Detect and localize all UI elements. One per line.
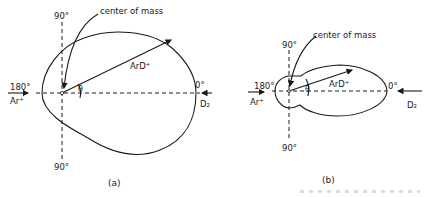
panel-label-a: (a) (108, 178, 121, 188)
top-angle-label-b: 90° (282, 40, 297, 50)
panel-b: 90° 90° 180° 0° center of mass ArD⁺ θ Ar… (248, 30, 422, 185)
center-of-mass-point-a (60, 91, 63, 94)
theta-label-a: θ (78, 85, 83, 94)
d2-beam-label-b: D₂ (407, 100, 417, 110)
vector-label-b: ArD⁺ (329, 79, 349, 89)
right-angle-label-a: 0° (195, 80, 205, 90)
left-angle-label-a: 180° (10, 82, 30, 92)
panel-a: 90° 90° 180° 0° center of mass ArD⁺ θ Ar… (8, 6, 212, 188)
scattering-diagram: 90° 90° 180° 0° center of mass ArD⁺ θ Ar… (0, 0, 426, 197)
center-of-mass-label-a: center of mass (100, 6, 164, 16)
bottom-angle-label-a: 90° (54, 162, 69, 172)
bottom-angle-label-b: 90° (282, 143, 297, 153)
panel-label-b: (b) (322, 175, 335, 185)
theta-label-b: θ (305, 85, 310, 94)
d2-beam-label-a: D₂ (200, 99, 210, 109)
ar-beam-label-a: Ar⁺ (10, 96, 24, 106)
vector-label-a: ArD⁺ (130, 61, 150, 71)
top-angle-label-a: 90° (54, 11, 69, 21)
faint-bleedthrough-text (300, 190, 420, 193)
center-of-mass-label-b: center of mass (313, 30, 377, 40)
left-angle-label-b: 180° (254, 81, 274, 91)
ar-beam-label-b: Ar⁺ (250, 97, 264, 107)
right-angle-label-b: 0° (388, 81, 398, 91)
center-of-mass-point-b (288, 90, 291, 93)
center-of-mass-leader-a (64, 14, 98, 88)
